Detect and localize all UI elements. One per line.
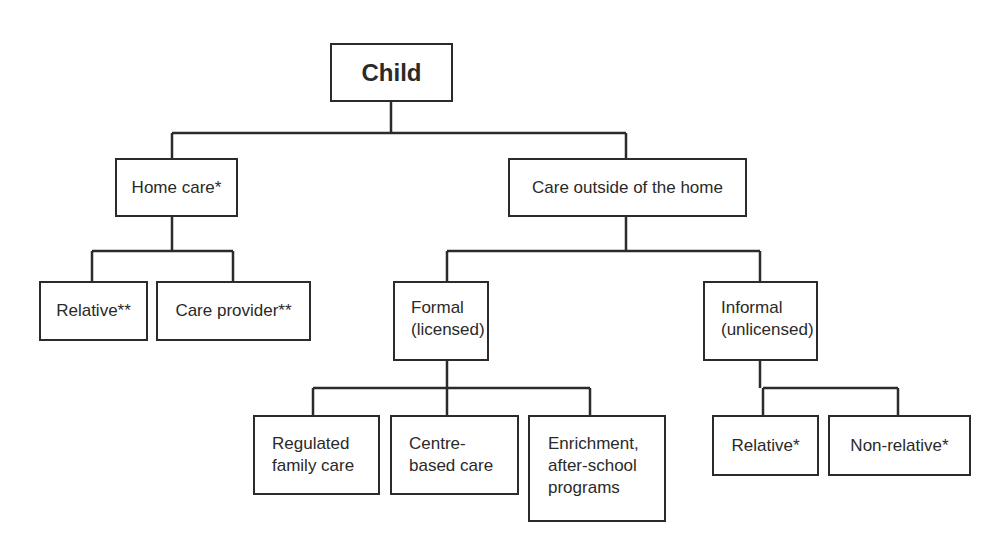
node-home-relative: Relative** (39, 281, 148, 341)
node-enrichment-programs-label: Enrichment, after-school programs (548, 434, 639, 497)
node-informal-label: Informal (unlicensed) (721, 298, 814, 339)
node-enrichment-programs: Enrichment, after-school programs (528, 415, 666, 522)
node-formal: Formal (licensed) (393, 281, 489, 361)
node-child-label: Child (362, 62, 422, 84)
node-non-relative-label: Non-relative* (850, 435, 948, 457)
node-home-care: Home care* (115, 158, 238, 217)
node-child: Child (330, 43, 453, 102)
node-regulated-family-care: Regulated family care (253, 415, 380, 495)
node-centre-based-care: Centre- based care (390, 415, 519, 495)
node-care-outside-home: Care outside of the home (508, 158, 747, 217)
node-regulated-family-care-label: Regulated family care (272, 434, 354, 475)
node-centre-based-care-label: Centre- based care (409, 434, 493, 475)
node-care-outside-home-label: Care outside of the home (532, 177, 723, 199)
node-informal: Informal (unlicensed) (703, 281, 818, 361)
node-non-relative: Non-relative* (828, 415, 971, 476)
node-informal-relative-label: Relative* (731, 435, 799, 457)
node-formal-label: Formal (licensed) (411, 298, 485, 339)
node-care-provider: Care provider** (156, 281, 311, 341)
node-home-care-label: Home care* (132, 177, 222, 199)
node-informal-relative: Relative* (712, 415, 819, 476)
node-home-relative-label: Relative** (56, 300, 131, 322)
node-care-provider-label: Care provider** (175, 300, 291, 322)
